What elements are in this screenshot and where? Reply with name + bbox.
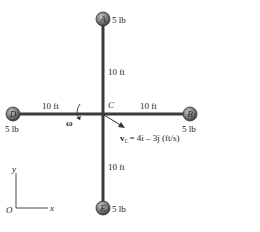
axis-origin-label: O	[6, 205, 13, 215]
length-down: 10 ft	[108, 162, 125, 172]
svg-text:E: E	[99, 203, 106, 213]
length-left: 10 ft	[42, 101, 59, 111]
ball-e: E	[96, 201, 110, 215]
ball-a: A	[96, 12, 110, 26]
svg-text:A: A	[99, 14, 106, 24]
length-up: 10 ft	[108, 67, 125, 77]
weight-e: 5 lb	[112, 204, 126, 214]
center-label: C	[108, 100, 115, 110]
angular-velocity-arrow	[76, 104, 81, 120]
axis-x-label: x	[49, 203, 54, 213]
length-right: 10 ft	[140, 101, 157, 111]
coordinate-axes	[16, 173, 48, 208]
axis-y-label: y	[11, 164, 16, 174]
weight-d: 5 lb	[5, 124, 19, 134]
velocity-label: vC= 4i – 3j (ft/s)	[120, 133, 180, 144]
svg-text:D: D	[9, 109, 17, 119]
weight-a: 5 lb	[112, 15, 126, 25]
ball-d: D	[6, 107, 20, 121]
omega-label: ω	[66, 118, 73, 128]
svg-text:B: B	[187, 109, 193, 119]
ball-b: B	[183, 107, 197, 121]
rigid-body-diagram: A B D E 5 lb 5 lb 5 lb 5 lb 10 ft 10 ft …	[0, 0, 260, 232]
velocity-arrow	[104, 115, 125, 128]
weight-b: 5 lb	[182, 124, 196, 134]
